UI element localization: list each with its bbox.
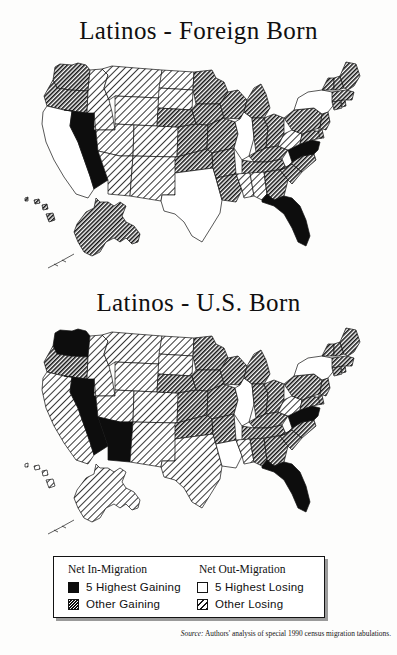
legend-item-5-highest-losing: 5 Highest Losing [197, 579, 314, 596]
state-ND [159, 336, 194, 356]
state-MT [102, 66, 162, 100]
legend-column-out-migration: Net Out-Migration 5 Highest Losing Other… [197, 562, 314, 613]
source-note: Source: Authors' analysis of special 199… [181, 629, 391, 639]
state-NM [130, 156, 177, 201]
map-2-svg [16, 322, 384, 550]
swatch-empty-white-icon [197, 582, 208, 593]
map-2-us-born [16, 322, 384, 550]
map-legend: Net In-Migration 5 Highest Gaining Other… [53, 556, 325, 618]
state-ME [340, 62, 360, 90]
source-note-label: Source: [181, 629, 204, 638]
state-MA [332, 90, 354, 102]
legend-item-5-highest-gaining: 5 Highest Gaining [68, 579, 185, 596]
state-ND [159, 70, 194, 90]
legend-item-other-gaining: Other Gaining [68, 596, 185, 613]
state-AR [212, 148, 236, 178]
figure-page: Latinos - Foreign Born [0, 0, 397, 655]
map-1-foreign-born [16, 56, 384, 284]
state-NE [157, 374, 196, 393]
state-WA [53, 63, 90, 91]
state-IN [252, 118, 268, 152]
legend-item-other-losing: Other Losing [197, 596, 314, 613]
state-PA [284, 108, 322, 134]
state-MT [102, 332, 162, 366]
state-FL [262, 194, 310, 246]
state-CO [133, 391, 179, 423]
state-WA [53, 329, 90, 357]
state-VT [322, 344, 334, 356]
legend-label-other-gaining: Other Gaining [86, 598, 160, 611]
map-1-svg [16, 56, 384, 284]
state-SD [158, 88, 193, 110]
state-WY [115, 96, 159, 126]
swatch-light-hatch-icon [197, 599, 208, 610]
state-MI [244, 350, 270, 384]
legend-label-5-highest-gaining: 5 Highest Gaining [86, 581, 181, 594]
legend-header-out-migration: Net Out-Migration [197, 562, 314, 577]
state-IN [252, 384, 268, 418]
legend-header-in-migration: Net In-Migration [68, 562, 185, 577]
map-1-title: Latinos - Foreign Born [0, 16, 397, 46]
state-PA [284, 374, 322, 400]
state-AR [212, 414, 236, 444]
state-MN [193, 70, 228, 104]
source-note-text: Authors' analysis of special 1990 census… [205, 629, 391, 638]
state-HI [25, 197, 55, 222]
state-VT [322, 78, 334, 90]
state-HI [25, 463, 55, 488]
state-NM [130, 422, 177, 467]
state-AK-aleutians [48, 254, 74, 268]
legend-label-other-losing: Other Losing [215, 598, 283, 611]
state-MO [207, 384, 238, 419]
swatch-solid-black-icon [68, 582, 79, 593]
state-MA [332, 356, 354, 368]
state-NE [157, 108, 196, 127]
state-ME [340, 328, 360, 356]
state-MI [244, 84, 270, 118]
state-CO [133, 125, 179, 157]
map-2-title: Latinos - U.S. Born [0, 288, 397, 318]
state-SD [158, 354, 193, 376]
legend-label-5-highest-losing: 5 Highest Losing [215, 581, 304, 594]
state-WY [115, 362, 159, 392]
state-MO [207, 118, 238, 153]
legend-column-in-migration: Net In-Migration 5 Highest Gaining Other… [68, 562, 185, 613]
swatch-dense-hatch-icon [68, 599, 79, 610]
state-AK [74, 198, 140, 256]
state-FL [262, 460, 310, 512]
state-MN [193, 336, 228, 370]
state-AK [74, 464, 140, 522]
state-AK-aleutians [48, 520, 74, 534]
